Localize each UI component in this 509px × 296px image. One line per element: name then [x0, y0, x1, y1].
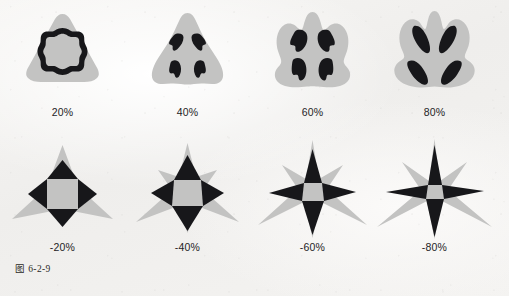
- gray-center-neg40: [172, 180, 203, 206]
- black-spike-neg60-bottom: [302, 201, 324, 235]
- shape-neg60-container: [250, 139, 375, 239]
- black-tri-neg20-bottom: [47, 209, 78, 227]
- figure-cell-neg80: -80%: [372, 139, 497, 253]
- shape-neg40-graphic: [125, 139, 250, 239]
- gray-center-neg60: [302, 183, 324, 201]
- shape-neg60-graphic: [250, 139, 375, 239]
- black-spike-neg80-right: [442, 185, 484, 199]
- figure-canvas: 20% 40%: [0, 0, 509, 296]
- shape-neg40-container: [125, 139, 250, 239]
- black-spike-neg60-right: [322, 183, 356, 201]
- black-spike-neg80-top: [428, 145, 442, 185]
- black-tri-neg20-top: [47, 160, 78, 179]
- shape-neg80-graphic: [372, 139, 497, 239]
- figure-cell-label-neg80: -80%: [372, 241, 497, 253]
- black-spike-neg80-bottom: [426, 199, 444, 237]
- black-spike-neg60-left: [269, 183, 304, 201]
- shape-neg20-container: [0, 139, 125, 239]
- gray-center-neg80: [426, 185, 444, 199]
- figure-caption-text: 图 6-2-9: [15, 264, 51, 274]
- black-tri-neg40-top: [174, 155, 201, 180]
- black-spike-neg80-left: [386, 185, 428, 199]
- black-spike-neg60-top: [304, 149, 322, 183]
- shape-neg80-container: [372, 139, 497, 239]
- figure-cell-label-neg60: -60%: [250, 241, 375, 253]
- figure-cell-label-neg40: -40%: [125, 241, 250, 253]
- figure-cell-neg20: -20%: [0, 139, 125, 253]
- figure-cell-label-neg20: -20%: [0, 241, 125, 253]
- figure-cell-neg60: -60%: [250, 139, 375, 253]
- figure-caption: 图 6-2-9: [15, 261, 51, 275]
- black-tri-neg40-bottom: [172, 206, 203, 231]
- figure-cell-neg40: -40%: [125, 139, 250, 253]
- figure-row-negative: -20% -40%: [0, 0, 509, 296]
- gray-center-square-neg20: [47, 179, 78, 209]
- shape-neg20-graphic: [0, 139, 125, 239]
